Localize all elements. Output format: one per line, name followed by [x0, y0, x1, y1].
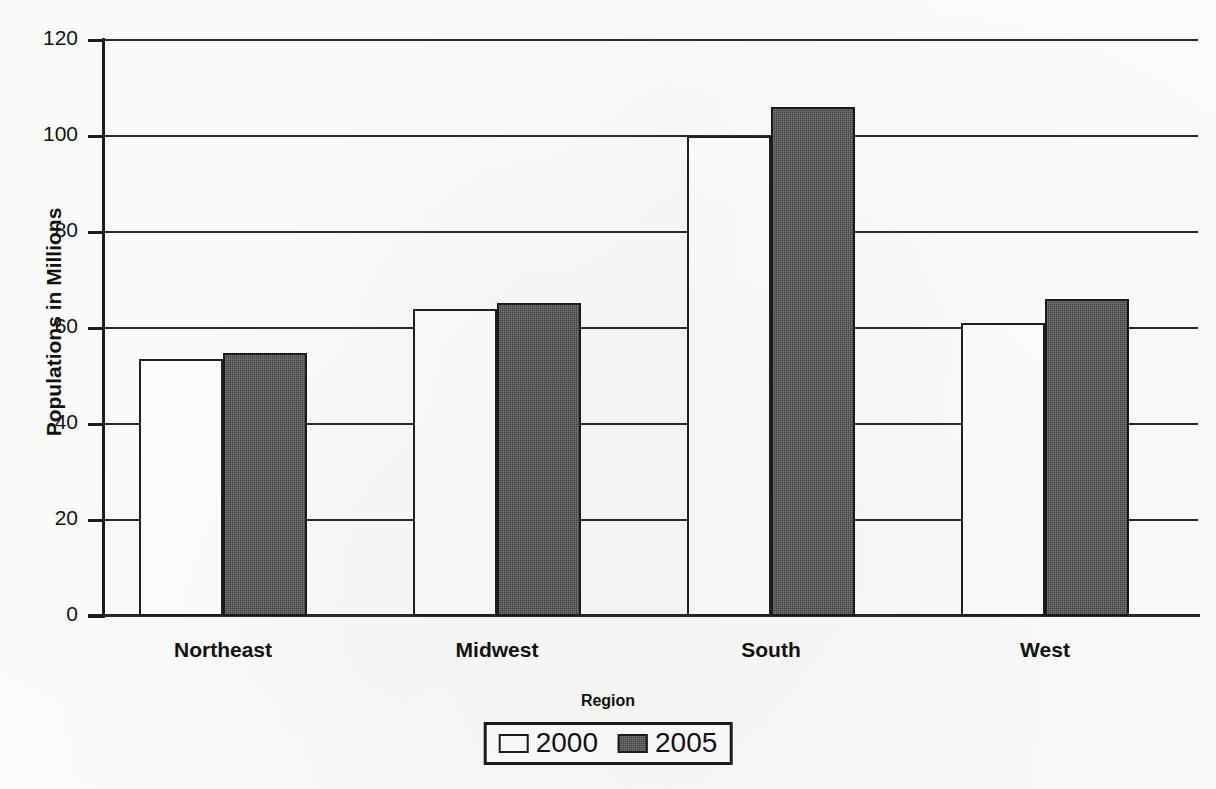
- bar-south-2000[interactable]: [687, 136, 771, 616]
- category-label-midwest: Midwest: [373, 638, 621, 662]
- plot-area: [102, 40, 1198, 616]
- legend-label-2005: 2005: [655, 729, 717, 757]
- gridline-100: [102, 135, 1198, 137]
- y-tick-label-80: 80: [0, 218, 78, 242]
- y-tick-60: [88, 327, 103, 330]
- bar-west-2000[interactable]: [961, 323, 1045, 616]
- bar-midwest-2005[interactable]: [497, 303, 581, 616]
- legend-item-2005[interactable]: 2005: [618, 729, 717, 757]
- gridline-80: [102, 231, 1198, 233]
- bar-chart: Populations in Millions 020406080100120 …: [0, 0, 1216, 789]
- y-tick-80: [88, 231, 103, 234]
- bar-midwest-2000[interactable]: [413, 309, 497, 616]
- legend-item-2000[interactable]: 2000: [499, 729, 598, 757]
- y-tick-label-120: 120: [0, 26, 78, 50]
- chart-legend: 2000 2005: [484, 722, 733, 765]
- legend-label-2000: 2000: [536, 729, 598, 757]
- category-label-south: South: [647, 638, 895, 662]
- bar-northeast-2005[interactable]: [223, 353, 307, 616]
- category-label-northeast: Northeast: [99, 638, 347, 662]
- bar-west-2005[interactable]: [1045, 299, 1129, 616]
- bar-south-2005[interactable]: [771, 107, 855, 616]
- y-tick-120: [88, 39, 103, 42]
- y-tick-100: [88, 135, 103, 138]
- legend-swatch-2005-icon: [618, 734, 648, 753]
- y-tick-label-0: 0: [0, 602, 78, 626]
- gridline-120: [102, 39, 1198, 41]
- y-tick-20: [88, 519, 103, 522]
- y-tick-40: [88, 423, 103, 426]
- y-tick-0: [88, 615, 103, 618]
- y-tick-label-60: 60: [0, 314, 78, 338]
- x-axis-title: Region: [0, 692, 1216, 710]
- bar-northeast-2000[interactable]: [139, 359, 223, 616]
- legend-swatch-2000-icon: [499, 734, 529, 753]
- y-tick-label-20: 20: [0, 506, 78, 530]
- category-label-west: West: [921, 638, 1169, 662]
- y-tick-label-40: 40: [0, 410, 78, 434]
- y-tick-label-100: 100: [0, 122, 78, 146]
